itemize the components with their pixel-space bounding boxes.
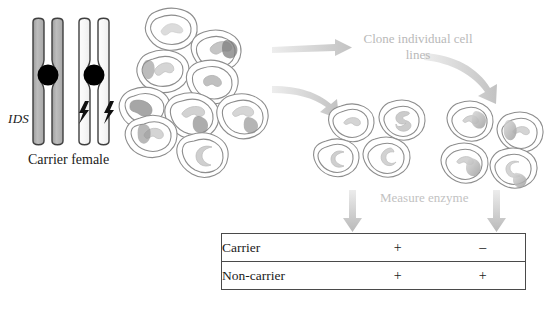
clone-line-a bbox=[314, 100, 425, 177]
clone-line-b bbox=[441, 101, 543, 188]
cell bbox=[125, 115, 177, 157]
row-label: Non-carrier bbox=[222, 262, 356, 290]
clone-step-label: Clone individual cell lines bbox=[358, 31, 478, 64]
arrow-down-icon bbox=[487, 190, 506, 232]
cell bbox=[314, 139, 359, 177]
cell bbox=[329, 104, 374, 142]
row-label: Carrier bbox=[222, 234, 356, 262]
cell bbox=[177, 133, 228, 177]
cell bbox=[145, 8, 197, 50]
clone-a-result: + bbox=[355, 262, 440, 290]
cell bbox=[497, 112, 543, 152]
cell bbox=[363, 137, 410, 177]
table-row: Carrier + – bbox=[222, 234, 526, 262]
table-row: Non-carrier + + bbox=[222, 262, 526, 290]
cell bbox=[490, 148, 537, 188]
cell bbox=[441, 143, 488, 183]
cell bbox=[217, 94, 268, 139]
mixed-fibroblast-population bbox=[119, 8, 278, 177]
cell bbox=[447, 101, 493, 141]
cell bbox=[379, 100, 425, 140]
genotype-label: Carrier female bbox=[28, 152, 109, 168]
measure-step-label: Measure enzyme bbox=[380, 190, 468, 206]
arrow-right-icon bbox=[272, 39, 352, 56]
cell bbox=[137, 50, 189, 92]
clone-b-result: + bbox=[440, 262, 525, 290]
clone-b-result: – bbox=[440, 234, 525, 262]
cell bbox=[235, 135, 278, 173]
results-table: Carrier + – Non-carrier + + bbox=[221, 233, 526, 290]
clone-a-result: + bbox=[355, 234, 440, 262]
figure-canvas: IDS Carrier female Clone individual cell… bbox=[0, 0, 550, 312]
arrow-down-icon bbox=[343, 190, 362, 232]
gene-label: IDS bbox=[8, 111, 29, 127]
